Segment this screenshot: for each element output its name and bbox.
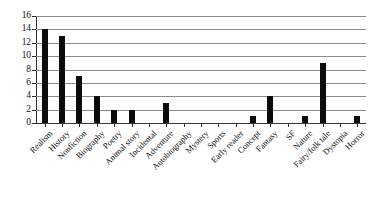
bar[interactable] <box>302 116 308 123</box>
bar-slot <box>53 16 70 123</box>
x-tick-mark <box>62 123 63 127</box>
y-tick-label: 6 <box>0 78 31 88</box>
bar-slot <box>192 16 209 123</box>
bar-slot <box>279 16 296 123</box>
bar-slot <box>331 16 348 123</box>
y-tick-mark <box>32 83 36 84</box>
x-tick-mark <box>132 123 133 127</box>
x-tick-mark <box>340 123 341 127</box>
bar[interactable] <box>42 29 48 123</box>
bar[interactable] <box>76 76 82 123</box>
bar[interactable] <box>267 96 273 123</box>
y-tick-label: 16 <box>0 11 31 21</box>
x-tick-mark <box>149 123 150 127</box>
bar-slot <box>123 16 140 123</box>
bar-slot <box>175 16 192 123</box>
y-tick-label: 0 <box>0 118 31 128</box>
y-tick-mark <box>32 56 36 57</box>
x-tick-mark <box>201 123 202 127</box>
y-tick-mark <box>32 29 36 30</box>
bar-slot <box>71 16 88 123</box>
bar-slot <box>158 16 175 123</box>
y-tick-label: 14 <box>0 24 31 34</box>
bar-slot <box>140 16 157 123</box>
y-tick-mark <box>32 96 36 97</box>
y-tick-label: 12 <box>0 38 31 48</box>
bar[interactable] <box>111 110 117 123</box>
bar[interactable] <box>250 116 256 123</box>
bar-slot <box>227 16 244 123</box>
y-tick-mark <box>32 43 36 44</box>
bar-chart-figure: 0246810121416 RealismHistoryNonfictionBi… <box>0 0 374 197</box>
x-tick-mark <box>114 123 115 127</box>
bar[interactable] <box>320 63 326 123</box>
plot-area <box>36 16 366 123</box>
x-tick-mark <box>357 123 358 127</box>
y-tick-mark <box>32 110 36 111</box>
bar[interactable] <box>59 36 65 123</box>
x-tick-mark <box>288 123 289 127</box>
bar[interactable] <box>94 96 100 123</box>
x-tick-mark <box>305 123 306 127</box>
bar[interactable] <box>163 103 169 123</box>
bar[interactable] <box>129 110 135 123</box>
x-tick-mark <box>79 123 80 127</box>
x-tick-mark <box>97 123 98 127</box>
x-tick-mark <box>166 123 167 127</box>
bar-slot <box>349 16 366 123</box>
bar-slot <box>105 16 122 123</box>
y-tick-mark <box>32 16 36 17</box>
bar[interactable] <box>354 116 360 123</box>
y-tick-label: 10 <box>0 51 31 61</box>
x-tick-mark <box>253 123 254 127</box>
y-tick-label: 4 <box>0 91 31 101</box>
y-tick-label: 8 <box>0 65 31 75</box>
bar-slot <box>297 16 314 123</box>
x-tick-mark <box>45 123 46 127</box>
bar-slot <box>244 16 261 123</box>
y-axis-labels: 0246810121416 <box>0 0 34 197</box>
y-tick-mark <box>32 123 36 124</box>
y-tick-mark <box>32 70 36 71</box>
y-tick-label: 2 <box>0 105 31 115</box>
x-tick-mark <box>218 123 219 127</box>
bar-slot <box>210 16 227 123</box>
bars-group <box>36 16 366 123</box>
bar-slot <box>88 16 105 123</box>
x-tick-mark <box>323 123 324 127</box>
bar-slot <box>314 16 331 123</box>
x-tick-mark <box>184 123 185 127</box>
x-tick-mark <box>236 123 237 127</box>
x-tick-mark <box>270 123 271 127</box>
bar-slot <box>36 16 53 123</box>
bar-slot <box>262 16 279 123</box>
